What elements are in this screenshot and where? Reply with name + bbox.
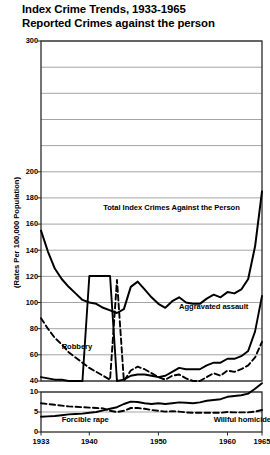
series-line	[41, 280, 262, 381]
series-annotation: Forcible rape	[62, 415, 109, 424]
y-axis-tick: 140	[8, 246, 38, 255]
x-axis-tick: 1933	[21, 437, 61, 446]
y-axis-tick: 200	[8, 167, 38, 176]
y-axis-tick: 180	[8, 193, 38, 202]
y-axis-tick: 40	[8, 376, 38, 385]
series-annotation: Aggravated assault	[179, 302, 248, 311]
y-axis-tick: 10	[8, 387, 38, 396]
y-axis-tick: 300	[8, 36, 38, 45]
series-annotation: Robbery	[62, 342, 92, 351]
x-axis-tick: 1950	[138, 437, 178, 446]
y-axis-tick: 5	[8, 407, 38, 416]
y-axis-tick: 100	[8, 298, 38, 307]
x-axis-tick: 1940	[69, 437, 109, 446]
y-axis-tick: 80	[8, 324, 38, 333]
series-annotation: Total Index Crimes Against the Person	[103, 203, 240, 212]
chart-canvas	[0, 0, 270, 455]
x-axis-tick: 1965	[242, 437, 270, 446]
y-axis-tick: 60	[8, 350, 38, 359]
y-axis-tick: 120	[8, 272, 38, 281]
chart-plot-area	[0, 0, 270, 455]
y-axis-tick: 0	[8, 427, 38, 436]
series-annotation: Willful homicide	[214, 415, 270, 424]
y-axis-tick: 160	[8, 219, 38, 228]
